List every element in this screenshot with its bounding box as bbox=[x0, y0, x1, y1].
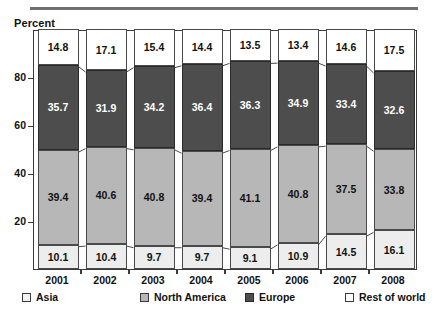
segment-row-2008[interactable]: 17.5 bbox=[374, 29, 415, 71]
segment-value-label: 35.7 bbox=[48, 101, 68, 113]
segment-eu-2001[interactable]: 35.7 bbox=[38, 65, 79, 151]
segment-na-2008[interactable]: 33.8 bbox=[374, 149, 415, 230]
header-rule bbox=[30, 7, 418, 10]
segment-value-label: 39.4 bbox=[192, 192, 212, 204]
segment-value-label: 33.4 bbox=[336, 98, 356, 110]
bar-2005[interactable]: 9.141.136.313.5 bbox=[230, 31, 271, 269]
legend-label: Europe bbox=[259, 291, 295, 303]
segment-asia-2005[interactable]: 9.1 bbox=[230, 247, 271, 269]
segment-eu-2007[interactable]: 33.4 bbox=[326, 64, 367, 144]
segment-na-2003[interactable]: 40.8 bbox=[134, 148, 175, 246]
bar-2006[interactable]: 10.940.834.913.4 bbox=[278, 31, 319, 269]
segment-value-label: 40.8 bbox=[144, 191, 164, 203]
segment-value-label: 37.5 bbox=[336, 183, 356, 195]
legend-swatch-eu bbox=[245, 293, 254, 302]
y-tick-label-40: 40 bbox=[4, 167, 26, 179]
legend-item-eu[interactable]: Europe bbox=[245, 291, 295, 303]
segment-asia-2006[interactable]: 10.9 bbox=[278, 243, 319, 269]
x-tick-label-2006: 2006 bbox=[273, 274, 321, 286]
bar-2002[interactable]: 10.440.631.917.1 bbox=[86, 31, 127, 269]
segment-asia-2004[interactable]: 9.7 bbox=[182, 246, 223, 269]
segment-na-2001[interactable]: 39.4 bbox=[38, 150, 79, 245]
segment-eu-2006[interactable]: 34.9 bbox=[278, 61, 319, 145]
segment-row-2001[interactable]: 14.8 bbox=[38, 29, 79, 65]
segment-eu-2002[interactable]: 31.9 bbox=[86, 70, 127, 147]
segment-value-label: 10.1 bbox=[48, 251, 68, 263]
legend-item-row[interactable]: Rest of world bbox=[345, 291, 426, 303]
segment-value-label: 36.3 bbox=[240, 99, 260, 111]
legend-label: Asia bbox=[36, 291, 58, 303]
segment-value-label: 17.5 bbox=[384, 44, 404, 56]
y-tick-mark-60 bbox=[28, 126, 33, 127]
segment-value-label: 17.1 bbox=[96, 44, 116, 56]
legend-label: Rest of world bbox=[359, 291, 426, 303]
segment-value-label: 32.6 bbox=[384, 104, 404, 116]
segment-eu-2003[interactable]: 34.2 bbox=[134, 66, 175, 148]
chart-legend: AsiaNorth AmericaEuropeRest of world bbox=[0, 291, 434, 311]
segment-value-label: 39.4 bbox=[48, 191, 68, 203]
y-tick-label-60: 60 bbox=[4, 119, 26, 131]
segment-row-2004[interactable]: 14.4 bbox=[182, 29, 223, 64]
segment-value-label: 13.4 bbox=[288, 39, 308, 51]
segment-asia-2001[interactable]: 10.1 bbox=[38, 245, 79, 269]
legend-swatch-asia bbox=[22, 293, 31, 302]
bar-2003[interactable]: 9.740.834.215.4 bbox=[134, 31, 175, 269]
segment-value-label: 36.4 bbox=[192, 101, 212, 113]
segment-na-2006[interactable]: 40.8 bbox=[278, 145, 319, 243]
segment-row-2003[interactable]: 15.4 bbox=[134, 29, 175, 66]
segment-value-label: 41.1 bbox=[240, 192, 260, 204]
segment-value-label: 34.9 bbox=[288, 97, 308, 109]
y-tick-mark-20 bbox=[28, 222, 33, 223]
segment-na-2007[interactable]: 37.5 bbox=[326, 144, 367, 234]
x-tick-label-2005: 2005 bbox=[225, 274, 273, 286]
segment-eu-2004[interactable]: 36.4 bbox=[182, 64, 223, 151]
x-tick-label-2008: 2008 bbox=[369, 274, 417, 286]
x-tick-label-2002: 2002 bbox=[81, 274, 129, 286]
segment-value-label: 40.6 bbox=[96, 189, 116, 201]
x-tick-label-2003: 2003 bbox=[129, 274, 177, 286]
segment-value-label: 10.4 bbox=[96, 251, 116, 263]
legend-label: North America bbox=[154, 291, 226, 303]
bar-2008[interactable]: 16.133.832.617.5 bbox=[374, 31, 415, 269]
segment-eu-2005[interactable]: 36.3 bbox=[230, 61, 271, 148]
segment-value-label: 15.4 bbox=[144, 41, 164, 53]
segment-value-label: 14.5 bbox=[336, 246, 356, 258]
x-tick-label-2007: 2007 bbox=[321, 274, 369, 286]
y-tick-label-20: 20 bbox=[4, 215, 26, 227]
segment-asia-2002[interactable]: 10.4 bbox=[86, 244, 127, 269]
segment-value-label: 31.9 bbox=[96, 102, 116, 114]
y-axis-title: Percent bbox=[14, 17, 55, 29]
x-tick-label-2004: 2004 bbox=[177, 274, 225, 286]
segment-na-2002[interactable]: 40.6 bbox=[86, 147, 127, 244]
y-tick-mark-80 bbox=[28, 78, 33, 79]
bar-2004[interactable]: 9.739.436.414.4 bbox=[182, 31, 223, 269]
segment-row-2005[interactable]: 13.5 bbox=[230, 29, 271, 61]
y-tick-mark-40 bbox=[28, 174, 33, 175]
segment-na-2004[interactable]: 39.4 bbox=[182, 151, 223, 246]
segment-value-label: 14.4 bbox=[192, 41, 212, 53]
segment-na-2005[interactable]: 41.1 bbox=[230, 149, 271, 248]
legend-item-na[interactable]: North America bbox=[140, 291, 226, 303]
segment-value-label: 9.7 bbox=[195, 251, 210, 263]
legend-swatch-row bbox=[345, 293, 354, 302]
plot-area: 10.139.435.714.810.440.631.917.19.740.83… bbox=[33, 30, 417, 270]
bar-2007[interactable]: 14.537.533.414.6 bbox=[326, 31, 367, 269]
bars-container: 10.139.435.714.810.440.631.917.19.740.83… bbox=[34, 31, 416, 269]
segment-value-label: 34.2 bbox=[144, 101, 164, 113]
segment-row-2006[interactable]: 13.4 bbox=[278, 29, 319, 61]
segment-value-label: 9.1 bbox=[243, 252, 258, 264]
segment-asia-2003[interactable]: 9.7 bbox=[134, 246, 175, 269]
segment-value-label: 33.8 bbox=[384, 184, 404, 196]
legend-item-asia[interactable]: Asia bbox=[22, 291, 58, 303]
segment-value-label: 13.5 bbox=[240, 39, 260, 51]
bar-2001[interactable]: 10.139.435.714.8 bbox=[38, 31, 79, 269]
segment-eu-2008[interactable]: 32.6 bbox=[374, 71, 415, 149]
y-tick-label-80: 80 bbox=[4, 71, 26, 83]
segment-row-2002[interactable]: 17.1 bbox=[86, 29, 127, 70]
segment-value-label: 14.8 bbox=[48, 41, 68, 53]
segment-asia-2008[interactable]: 16.1 bbox=[374, 230, 415, 269]
segment-asia-2007[interactable]: 14.5 bbox=[326, 234, 367, 269]
segment-value-label: 9.7 bbox=[147, 251, 162, 263]
segment-value-label: 16.1 bbox=[384, 244, 404, 256]
segment-row-2007[interactable]: 14.6 bbox=[326, 29, 367, 64]
